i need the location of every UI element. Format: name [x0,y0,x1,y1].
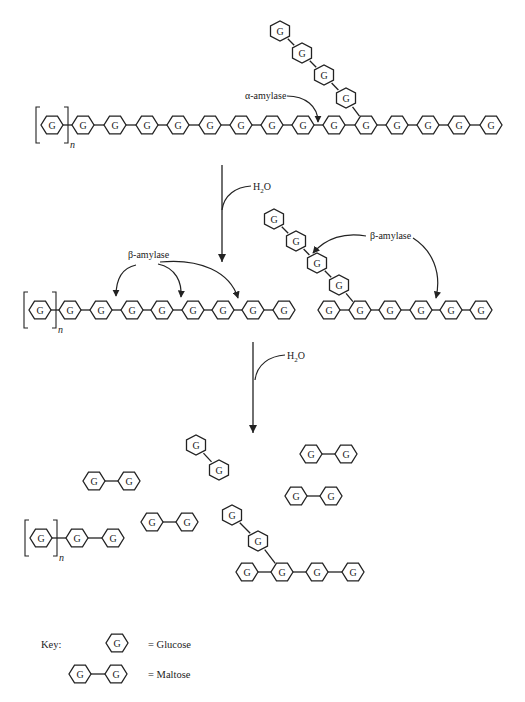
glucose-unit: G [102,529,124,547]
glucose-unit: G [59,301,81,319]
glycosidic-bond [332,83,339,90]
glucose-unit: G [69,665,91,683]
glucose-letter: G [237,120,244,131]
glucose-letter: G [183,517,190,528]
glucose-unit: G [287,231,306,251]
glycosidic-bond [265,550,276,564]
glucose-unit: G [315,65,334,85]
glucose-letter: G [298,48,305,59]
glucose-letter: G [299,120,306,131]
glucose-unit: G [355,116,377,134]
glucose-unit: G [271,563,293,581]
beta-amylase-arrow-1 [116,265,136,296]
beta-amylase-arrow-3 [160,261,238,298]
glucose-letter: G [76,669,83,680]
glucose-unit: G [105,665,127,683]
glucose-unit: G [223,505,242,525]
glucose-letter: G [477,305,484,316]
glucose-unit: G [318,301,340,319]
glucose-letter: G [349,567,356,578]
repeat-subscript-n: n [59,552,64,563]
glucose-unit: G [249,531,268,551]
glucose-letter: G [249,305,256,316]
glucose-unit: G [242,301,264,319]
glucose-unit: G [335,445,357,463]
glucose-unit: G [440,301,462,319]
glucose-unit: G [118,472,140,490]
glucose-unit: G [83,472,105,490]
water-input-curve-2 [255,355,285,380]
glucose-letter: G [447,305,454,316]
glucose-unit: G [480,116,502,134]
glucose-unit: G [199,116,221,134]
glucose-unit: G [187,435,206,455]
glucose-letter: G [424,120,431,131]
glucose-letter: G [174,120,181,131]
water-input-curve-1 [222,186,251,210]
beta-amylase-arrow-4 [313,235,366,253]
glucose-unit: G [470,301,492,319]
glucose-letter: G [320,70,327,81]
glucose-unit: G [261,116,283,134]
water-label-2: H2O [287,351,305,364]
glucose-letter: G [228,510,235,521]
glucose-letter: G [219,305,226,316]
glucose-unit: G [273,301,295,319]
glucose-unit: G [300,445,322,463]
glucose-unit: G [323,116,345,134]
glucose-unit: G [29,301,51,319]
water-label-1: H2O [253,182,271,195]
glucose-letter: G [268,120,275,131]
glucose-letter: G [362,120,369,131]
glucose-unit: G [72,116,94,134]
glucose-letter: G [313,567,320,578]
glucose-letter: G [128,305,135,316]
glucose-unit: G [236,563,258,581]
arrowhead-icon [249,425,257,433]
glucose-letter: G [125,476,132,487]
glucose-unit: G [176,513,198,531]
key-maltose-label: = Maltose [148,670,190,681]
glucose-letter: G [36,305,43,316]
glycosidic-bond [325,271,331,277]
glucose-unit: G [230,116,252,134]
key-glucose-label: = Glucose [148,640,191,651]
glucose-letter: G [109,533,116,544]
glucose-letter: G [66,305,73,316]
glucose-letter: G [90,476,97,487]
beta-amylase-label-right: β-amylase [370,231,411,241]
glucose-letter: G [243,567,250,578]
glucose-letter: G [417,305,424,316]
key-title: Key: [41,640,61,651]
glucose-letter: G [327,491,334,502]
glucose-letter: G [254,536,261,547]
glycosidic-bond [282,227,288,233]
glucose-letter: G [143,120,150,131]
glucose-unit: G [106,634,128,652]
glucose-letter: G [215,465,222,476]
glucose-unit: G [285,487,307,505]
glucose-unit: G [308,253,327,273]
glycosidic-bond [304,249,310,255]
glucose-unit: G [337,88,356,108]
glucose-letter: G [342,449,349,460]
glucose-unit: G [30,529,52,547]
alpha-amylase-label: α-amylase [245,91,286,101]
glucose-unit: G [410,301,432,319]
repeat-subscript-n: n [70,139,75,150]
glucose-letter: G [113,638,120,649]
glucose-unit: G [271,21,290,41]
glucose-letter: G [192,440,199,451]
glucose-unit: G [320,487,342,505]
glycosidic-bond [288,39,294,45]
glucose-letter: G [342,93,349,104]
starch-hydrolysis-diagram: nGGGGGGGGGGGGGGGGGGGnGGGGGGGGGGGGGGGGGGG… [0,0,525,702]
glucose-letter: G [79,120,86,131]
glucose-unit: G [210,460,229,480]
glucose-unit: G [342,563,364,581]
glucose-letter: G [356,305,363,316]
glucose-letter: G [386,305,393,316]
glucose-letter: G [48,120,55,131]
repeat-bracket-stage1-left [36,107,40,143]
glucose-letter: G [292,236,299,247]
